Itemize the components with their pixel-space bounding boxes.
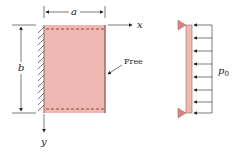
dimension-b-label: b <box>18 62 24 73</box>
x-axis-label: x <box>137 19 143 30</box>
load-subscript: 0 <box>224 70 228 78</box>
plate <box>44 25 105 113</box>
load-label: p0 <box>218 65 229 78</box>
plate-diagram: a x b y Free <box>0 0 238 155</box>
dimension-b: b <box>12 25 36 113</box>
free-edge-label: Free <box>124 57 143 66</box>
distributed-load <box>194 25 212 113</box>
free-edge-annotation: Free <box>108 57 143 74</box>
y-axis: y <box>40 114 47 147</box>
y-axis-label: y <box>40 136 47 147</box>
x-axis: x <box>108 19 143 30</box>
plate-top-view: a x b y Free <box>12 6 143 147</box>
plate-edge-section <box>186 25 192 113</box>
dimension-a: a <box>44 6 105 18</box>
plate-side-view: p0 <box>178 20 229 118</box>
top-support <box>178 20 186 30</box>
bottom-support <box>178 108 186 118</box>
dimension-a-label: a <box>71 6 77 17</box>
clamped-edge-hatch <box>38 25 44 113</box>
